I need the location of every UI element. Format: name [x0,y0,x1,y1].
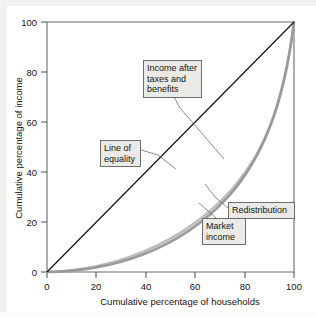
x-axis-ticks [47,272,294,278]
y-tick-label: 40 [26,167,37,178]
y-tick-label: 20 [26,217,37,228]
x-tick-label: 60 [190,281,201,292]
y-tick-label: 100 [21,17,37,28]
x-tick-label: 100 [286,281,302,292]
y-tick-label: 0 [32,267,37,278]
leader-income-after [173,95,224,159]
callout-market-income: Market income [202,218,246,245]
lorenz-curve-figure: 100 80 60 40 20 0 0 20 40 60 80 100 Cumu… [0,0,316,317]
callout-income-after-taxes-and-benefits: Income after taxes and benefits [143,60,202,98]
x-tick-label: 40 [141,281,152,292]
x-axis-title: Cumulative percentage of households [100,296,260,307]
x-tick-labels: 0 20 40 60 80 100 [44,281,302,292]
callout-redistribution: Redistribution [228,202,295,219]
callout-line-of-equality: Line of equality [100,140,141,167]
y-tick-label: 80 [26,67,37,78]
y-axis-title: Cumulative percentage of income [13,77,24,219]
x-tick-label: 20 [91,281,102,292]
x-tick-label: 80 [240,281,251,292]
callout-leader-lines [141,95,228,218]
x-tick-label: 0 [44,281,49,292]
y-axis-ticks [41,22,47,272]
y-tick-label: 60 [26,117,37,128]
plot-area: 100 80 60 40 20 0 0 20 40 60 80 100 Cumu… [0,0,316,317]
